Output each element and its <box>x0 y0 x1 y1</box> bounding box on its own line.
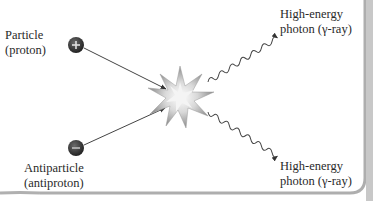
annihilation-burst-icon <box>148 66 214 128</box>
antiproton-particle <box>68 140 84 156</box>
photon-bottom-name: High-energy <box>280 159 352 174</box>
particle-arrow <box>84 48 166 89</box>
antiparticle-arrow <box>84 108 165 145</box>
particle-detail: (proton) <box>5 43 46 58</box>
photon-top-label: High-energy photon (γ-ray) <box>280 7 352 37</box>
diagram-canvas: Particle (proton) Antiparticle (antiprot… <box>0 0 373 201</box>
antiparticle-detail: (antiproton) <box>24 176 84 191</box>
particle-label: Particle (proton) <box>5 28 46 58</box>
photon-top-wave <box>201 36 283 82</box>
antiparticle-label: Antiparticle (antiproton) <box>24 161 84 191</box>
photon-bottom-detail: photon (γ-ray) <box>280 174 352 189</box>
proton-particle <box>68 37 84 53</box>
photon-top-detail: photon (γ-ray) <box>280 22 352 37</box>
photon-top-name: High-energy <box>280 7 352 22</box>
antiparticle-name: Antiparticle <box>24 161 84 176</box>
photon-bottom-label: High-energy photon (γ-ray) <box>280 159 352 189</box>
photon-bottom-wave <box>201 112 283 158</box>
particle-name: Particle <box>5 28 46 43</box>
